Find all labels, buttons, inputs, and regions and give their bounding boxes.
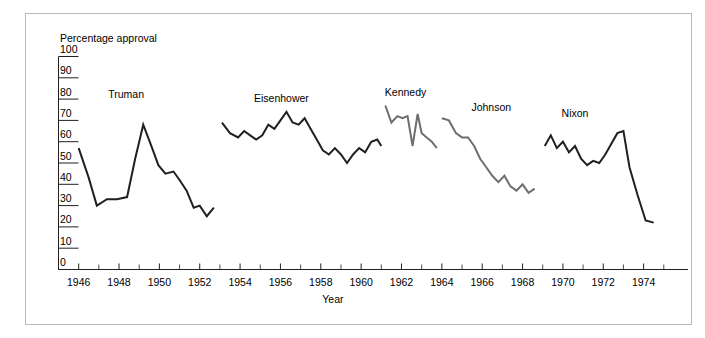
x-tick-label-1972: 1972 xyxy=(592,276,616,288)
series-label-truman: Truman xyxy=(108,88,144,100)
figure-frame: 0102030405060708090100Percentage approva… xyxy=(25,13,692,325)
y-tick-label-80: 80 xyxy=(60,86,72,98)
series-label-nixon: Nixon xyxy=(562,107,589,119)
y-tick-label-90: 90 xyxy=(60,64,72,76)
y-tick-label-60: 60 xyxy=(60,128,72,140)
y-axis-title: Percentage approval xyxy=(60,32,157,44)
x-tick-label-1960: 1960 xyxy=(349,276,373,288)
series-line-truman xyxy=(79,125,214,217)
approval-rating-line-chart: 0102030405060708090100Percentage approva… xyxy=(26,14,693,326)
x-tick-label-1964: 1964 xyxy=(430,276,454,288)
series-line-kennedy xyxy=(385,105,436,148)
x-tick-label-1952: 1952 xyxy=(188,276,212,288)
x-tick-label-1958: 1958 xyxy=(309,276,333,288)
series-label-kennedy: Kennedy xyxy=(385,86,427,98)
x-tick-label-1950: 1950 xyxy=(148,276,172,288)
series-label-johnson: Johnson xyxy=(471,101,511,113)
series-label-eisenhower: Eisenhower xyxy=(254,92,309,104)
x-tick-label-1954: 1954 xyxy=(228,276,252,288)
x-tick-label-1966: 1966 xyxy=(471,276,495,288)
x-tick-label-1970: 1970 xyxy=(551,276,575,288)
y-tick-label-10: 10 xyxy=(60,235,72,247)
y-tick-label-20: 20 xyxy=(60,213,72,225)
x-tick-label-1948: 1948 xyxy=(107,276,131,288)
x-axis-title: Year xyxy=(322,293,344,305)
series-line-johnson xyxy=(442,118,535,193)
series-line-nixon xyxy=(545,131,654,223)
y-tick-label-0: 0 xyxy=(60,256,66,268)
x-tick-label-1956: 1956 xyxy=(269,276,293,288)
series-line-eisenhower xyxy=(222,112,381,163)
y-tick-label-100: 100 xyxy=(60,43,78,55)
y-tick-label-70: 70 xyxy=(60,107,72,119)
y-tick-label-30: 30 xyxy=(60,192,72,204)
x-tick-label-1968: 1968 xyxy=(511,276,535,288)
x-tick-label-1962: 1962 xyxy=(390,276,414,288)
x-tick-label-1974: 1974 xyxy=(632,276,656,288)
x-tick-label-1946: 1946 xyxy=(67,276,91,288)
y-tick-label-40: 40 xyxy=(60,171,72,183)
y-tick-label-50: 50 xyxy=(60,150,72,162)
